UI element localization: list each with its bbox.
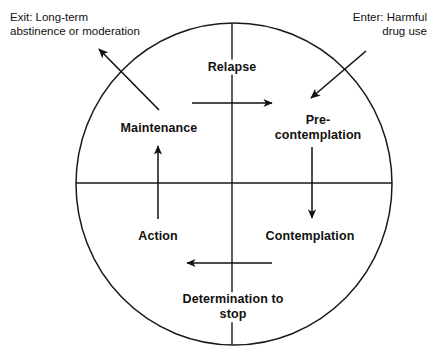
stage-label-action: Action bbox=[135, 229, 181, 244]
stage-text-contemplation: Contemplation bbox=[266, 229, 355, 243]
stage-label-precontemplation: Pre- contemplation bbox=[272, 113, 365, 143]
stage-label-relapse: Relapse bbox=[205, 60, 260, 75]
annotation-exit-line1: Exit: Long-term bbox=[10, 10, 140, 24]
stage-text-determination-line2: stop bbox=[183, 307, 284, 322]
stage-label-maintenance: Maintenance bbox=[118, 121, 201, 136]
stage-text-precontemplation-line2: contemplation bbox=[275, 128, 362, 143]
annotation-enter-line1: Enter: Harmful bbox=[305, 10, 427, 24]
stage-text-determination-line1: Determination to bbox=[183, 292, 284, 307]
stage-text-precontemplation-line1: Pre- bbox=[275, 113, 362, 128]
annotation-exit-line2: abstinence or moderation bbox=[10, 24, 140, 38]
stage-text-relapse: Relapse bbox=[208, 60, 257, 74]
cycle-of-change-diagram: Relapse Pre- contemplation Maintenance C… bbox=[0, 0, 437, 356]
annotation-exit: Exit: Long-term abstinence or moderation bbox=[10, 10, 140, 39]
annotation-enter-line2: drug use bbox=[305, 24, 427, 38]
stage-text-action: Action bbox=[138, 229, 178, 243]
diagram-labels: Relapse Pre- contemplation Maintenance C… bbox=[0, 0, 437, 356]
stage-label-determination: Determination to stop bbox=[180, 292, 287, 322]
stage-label-contemplation: Contemplation bbox=[263, 229, 358, 244]
stage-text-maintenance: Maintenance bbox=[121, 121, 198, 135]
annotation-enter: Enter: Harmful drug use bbox=[305, 10, 427, 39]
